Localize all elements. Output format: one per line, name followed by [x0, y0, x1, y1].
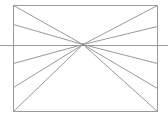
perspective-ray [14, 45, 84, 112]
perspective-drawing [0, 0, 168, 115]
left-perspective-rays [14, 6, 84, 112]
perspective-ray [83, 45, 158, 112]
perspective-ray [14, 6, 84, 45]
perspective-ray [14, 45, 84, 88]
perspective-ray [14, 25, 84, 45]
vanishing-point [82, 44, 84, 46]
perspective-ray [83, 27, 158, 45]
perspective-ray [83, 45, 158, 89]
perspective-ray [83, 6, 158, 45]
perspective-diagram [0, 0, 168, 115]
right-perspective-rays [83, 6, 158, 112]
